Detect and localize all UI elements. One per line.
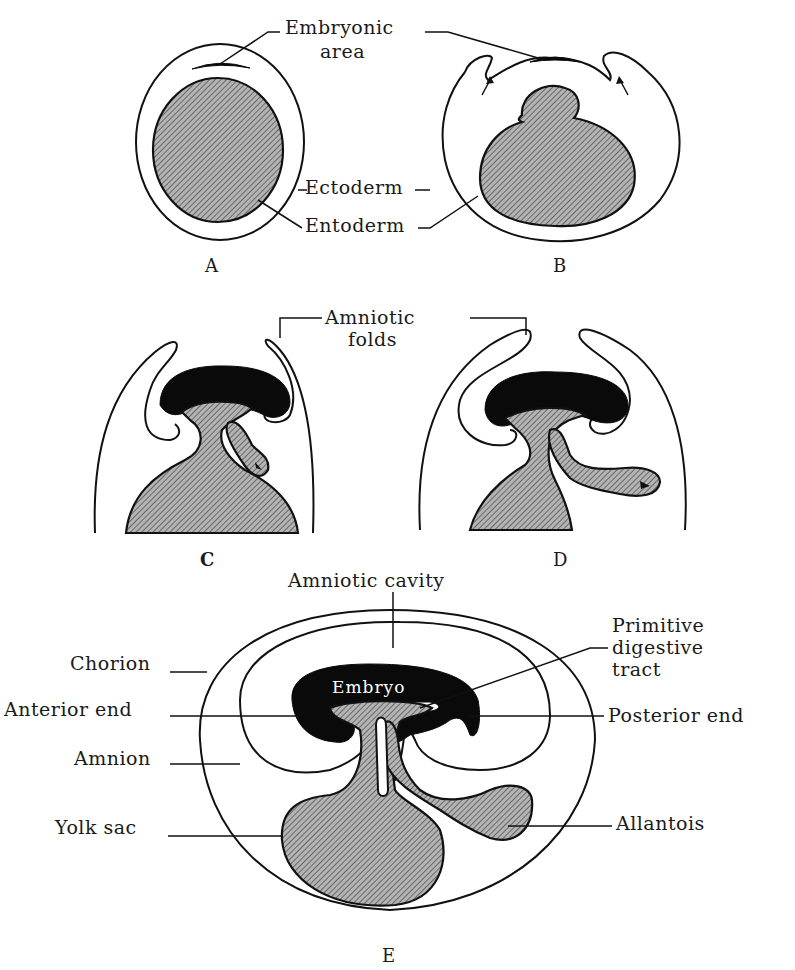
label-embryonic-text-1: Embryonic [285,16,394,38]
label-embryonic-area: Embryonic area [220,16,545,64]
label-yolk-sac-text: Yolk sac [54,816,137,838]
label-amnion: Amnion [73,747,240,769]
label-amnion-text: Amnion [73,747,151,769]
label-entoderm-text: Entoderm [305,214,405,236]
entoderm-shape-a [153,78,283,222]
embryo-label: Embryo [332,677,405,697]
entoderm-shape-b [480,86,635,226]
panel-label-e: E [382,945,395,966]
label-amniotic-folds-text-2: folds [348,328,397,350]
label-pdt-text-1: Primitive [612,614,704,636]
leader-line [418,196,478,228]
panel-e: Embryo E [200,610,595,966]
panel-label-b: B [553,255,566,276]
label-ectoderm: Ectoderm [298,176,430,198]
label-chorion-text: Chorion [70,652,151,674]
label-amniotic-folds-text-1: Amniotic [324,306,415,328]
panel-label-a: A [204,255,219,276]
panel-b: B [443,53,680,276]
label-entoderm: Entoderm [258,196,478,236]
label-embryonic-text-2: area [320,40,365,62]
label-anterior-end: Anterior end [3,698,300,720]
panel-c: C [95,340,314,570]
allantoic-stalk [376,718,388,797]
label-allantois-text: Allantois [615,812,705,834]
panel-label-c: C [200,549,214,570]
leader-line [280,318,322,338]
panel-d: D [419,329,685,570]
panel-label-d: D [553,549,567,570]
label-pdt-text-2: digestive [612,636,704,658]
label-pdt-text-3: tract [612,658,661,680]
label-amniotic-folds: Amniotic folds [280,306,526,350]
embryo-development-diagram: A B Embryonic area Ectoderm Entoderm [0,0,795,970]
label-amniotic-cavity-text: Amniotic cavity [287,569,445,591]
label-allantois: Allantois [508,812,705,834]
label-amniotic-cavity: Amniotic cavity [287,569,445,648]
leader-line [470,318,526,335]
panel-a: A [136,44,304,276]
arrowhead-icon [616,76,624,84]
label-posterior-end-text: Posterior end [608,704,744,726]
label-chorion: Chorion [70,652,207,674]
label-anterior-end-text: Anterior end [3,698,132,720]
label-yolk-sac: Yolk sac [54,816,282,838]
label-ectoderm-text: Ectoderm [305,176,403,198]
label-posterior-end: Posterior end [470,704,744,726]
amnion-fold-d-right [579,329,685,530]
